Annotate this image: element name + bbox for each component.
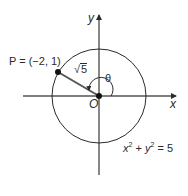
circle-equation: x2 + y2 = 5 — [123, 141, 173, 154]
y-axis-label: y — [88, 12, 94, 24]
radius-segment — [58, 72, 99, 96]
theta-label: θ — [105, 73, 111, 84]
equation-plus: + — [132, 142, 145, 154]
equation-rhs: = 5 — [154, 142, 173, 154]
x-axis-label: x — [170, 98, 176, 110]
radicand: 5 — [80, 63, 87, 75]
origin-label: O — [89, 98, 98, 110]
point-p-label: P = (−2, 1) — [9, 56, 61, 67]
diagram-canvas: y x O P = (−2, 1) √5 θ x2 + y2 = 5 — [0, 0, 188, 196]
point-p-dot — [55, 69, 61, 75]
radius-label: √5 — [74, 63, 87, 75]
